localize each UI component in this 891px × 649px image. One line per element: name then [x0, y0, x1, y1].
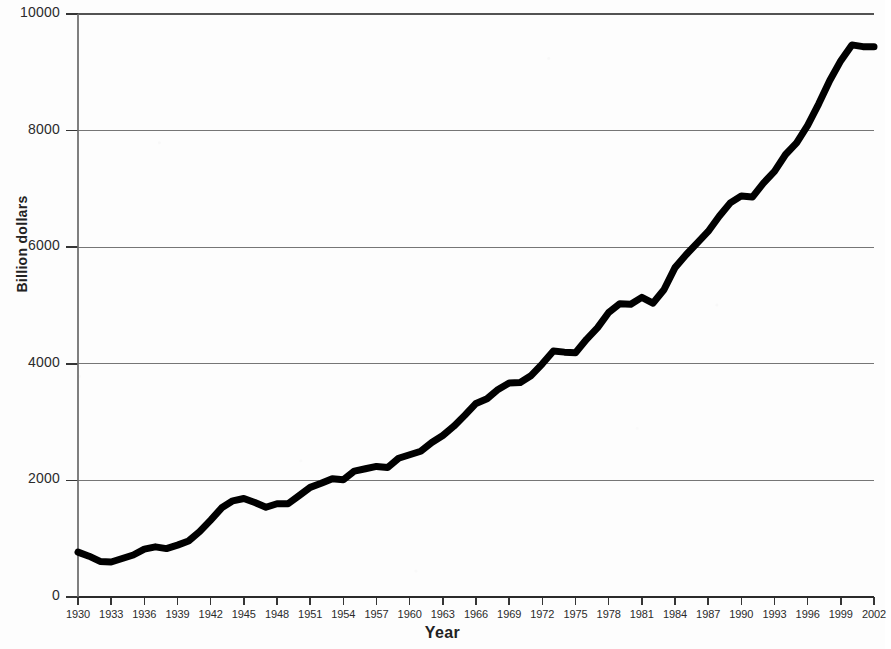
ytick-label-0: 0 — [0, 587, 60, 603]
xtick-label-1984: 1984 — [657, 608, 693, 620]
ytick-label-8000: 8000 — [0, 121, 60, 137]
ytick-label-10000: 10000 — [0, 4, 60, 20]
ytick-label-6000: 6000 — [0, 237, 60, 253]
xtick-label-1930: 1930 — [60, 608, 96, 620]
xtick-label-1945: 1945 — [226, 608, 262, 620]
xtick-label-1939: 1939 — [160, 608, 196, 620]
xtick-label-1990: 1990 — [723, 608, 759, 620]
xtick-label-1933: 1933 — [93, 608, 129, 620]
xtick-label-1999: 1999 — [823, 608, 859, 620]
gridlines — [78, 14, 874, 480]
xtick-label-1954: 1954 — [325, 608, 361, 620]
ytick-label-4000: 4000 — [0, 354, 60, 370]
data-series-group — [78, 45, 874, 562]
y-axis-title: Billion dollars — [14, 174, 30, 314]
data-line-0 — [78, 45, 874, 562]
x-axis-ticks — [78, 597, 874, 605]
xtick-label-1960: 1960 — [392, 608, 428, 620]
xtick-label-1987: 1987 — [690, 608, 726, 620]
xtick-label-1966: 1966 — [458, 608, 494, 620]
xtick-label-2002: 2002 — [856, 608, 891, 620]
y-axis-ticks — [66, 14, 78, 597]
xtick-label-1942: 1942 — [193, 608, 229, 620]
xtick-label-1978: 1978 — [591, 608, 627, 620]
axis-lines — [78, 14, 874, 597]
xtick-label-1993: 1993 — [757, 608, 793, 620]
xtick-label-1936: 1936 — [126, 608, 162, 620]
xtick-label-1963: 1963 — [425, 608, 461, 620]
x-axis-title: Year — [0, 624, 885, 642]
xtick-label-1975: 1975 — [558, 608, 594, 620]
xtick-label-1972: 1972 — [524, 608, 560, 620]
xtick-label-1996: 1996 — [790, 608, 826, 620]
xtick-label-1969: 1969 — [491, 608, 527, 620]
xtick-label-1951: 1951 — [292, 608, 328, 620]
ytick-label-2000: 2000 — [0, 470, 60, 486]
xtick-label-1957: 1957 — [359, 608, 395, 620]
xtick-label-1981: 1981 — [624, 608, 660, 620]
xtick-label-1948: 1948 — [259, 608, 295, 620]
